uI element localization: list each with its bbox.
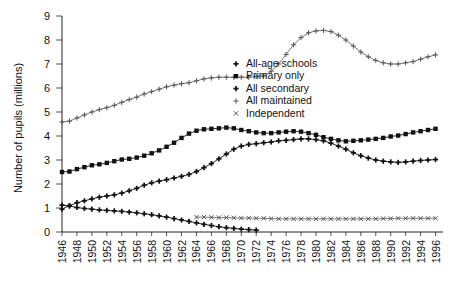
y-tick-label: 4: [44, 130, 50, 142]
y-tick-label: 9: [44, 10, 50, 22]
data-point: [344, 139, 348, 143]
x-tick-label: 1988: [370, 240, 382, 264]
x-tick-label: 1992: [400, 240, 412, 264]
x-tick-label: 1984: [340, 240, 352, 264]
x-tick-label: 1970: [235, 240, 247, 264]
x-tick-label: 1956: [131, 240, 143, 264]
data-point: [314, 133, 318, 137]
x-tick-label: 1952: [101, 240, 113, 264]
data-point: [164, 145, 168, 149]
data-point: [172, 141, 176, 145]
x-tick-label: 1962: [176, 240, 188, 264]
x-tick-label: 1960: [161, 240, 173, 264]
x-tick-label: 1986: [355, 240, 367, 264]
legend-item-label: Independent: [246, 107, 304, 119]
y-tick-label: 1: [44, 202, 50, 214]
data-point: [97, 162, 101, 166]
data-point: [135, 155, 139, 159]
x-tick-label: 1996: [430, 240, 442, 264]
data-point: [336, 138, 340, 142]
data-point: [67, 169, 71, 173]
x-tick-label: 1990: [385, 240, 397, 264]
data-point: [232, 126, 236, 130]
y-tick-label: 5: [44, 106, 50, 118]
data-point: [359, 138, 363, 142]
x-tick-label: 1982: [325, 240, 337, 264]
data-point: [112, 159, 116, 163]
y-tick-label: 8: [44, 34, 50, 46]
data-point: [120, 157, 124, 161]
data-point: [403, 132, 407, 136]
data-point: [254, 130, 258, 134]
legend-item-label: Primary only: [246, 69, 305, 81]
x-tick-label: 1954: [116, 240, 128, 264]
legend-item-all-maintained[interactable]: All maintained: [233, 94, 312, 106]
chart-container: Number of pupils (millions) 0123456789 1…: [0, 0, 453, 290]
y-tick-label: 0: [44, 226, 50, 238]
x-tick-label: 1946: [56, 240, 68, 264]
data-point: [224, 125, 228, 129]
legend-item-label: All maintained: [246, 94, 312, 106]
data-point: [105, 161, 109, 165]
data-point: [149, 151, 153, 155]
data-point: [90, 163, 94, 167]
data-point: [329, 137, 333, 141]
data-point: [351, 139, 355, 143]
legend-item-all-age-schools[interactable]: All-age schools: [233, 57, 317, 69]
data-point: [389, 134, 393, 138]
data-point: [60, 170, 64, 174]
x-tick-label: 1966: [205, 240, 217, 264]
x-tick-label: 1972: [250, 240, 262, 264]
data-point: [276, 130, 280, 134]
data-point: [75, 167, 79, 171]
y-tick-label: 7: [44, 58, 50, 70]
legend-item-label: All secondary: [246, 82, 310, 94]
data-point: [209, 127, 213, 131]
data-point: [411, 130, 415, 134]
data-point: [374, 137, 378, 141]
data-point: [142, 153, 146, 157]
data-point: [247, 129, 251, 133]
data-point: [284, 129, 288, 133]
data-point: [269, 131, 273, 135]
y-tick-label: 6: [44, 82, 50, 94]
data-point: [433, 127, 437, 131]
data-point: [291, 129, 295, 133]
data-point: [202, 127, 206, 131]
x-tick-label: 1950: [86, 240, 98, 264]
data-point: [396, 133, 400, 137]
data-point: [426, 128, 430, 132]
y-axis-title: Number of pupils (millions): [12, 63, 24, 193]
data-point: [157, 148, 161, 152]
data-point: [381, 136, 385, 140]
data-point: [217, 126, 221, 130]
data-point: [187, 131, 191, 135]
x-tick-label: 1968: [220, 240, 232, 264]
x-tick-label: 1994: [415, 240, 427, 264]
data-point: [234, 74, 238, 78]
y-tick-label: 2: [44, 178, 50, 190]
x-tick-label: 1964: [190, 240, 202, 264]
x-tick-label: 1958: [146, 240, 158, 264]
data-point: [366, 137, 370, 141]
pupils-line-chart: Number of pupils (millions) 0123456789 1…: [0, 0, 453, 290]
data-point: [82, 165, 86, 169]
data-point: [194, 129, 198, 133]
data-point: [306, 131, 310, 135]
data-point: [262, 131, 266, 135]
data-point: [127, 157, 131, 161]
x-tick-label: 1974: [265, 240, 277, 264]
legend-item-label: All-age schools: [246, 57, 317, 69]
y-tick-label: 3: [44, 154, 50, 166]
data-point: [179, 136, 183, 140]
data-point: [239, 128, 243, 132]
x-tick-label: 1976: [280, 240, 292, 264]
x-tick-label: 1978: [295, 240, 307, 264]
x-tick-label: 1980: [310, 240, 322, 264]
data-point: [299, 129, 303, 133]
data-point: [418, 129, 422, 133]
x-tick-label: 1948: [71, 240, 83, 264]
